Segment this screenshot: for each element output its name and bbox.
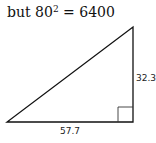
triangle-shape xyxy=(7,27,133,122)
right-angle-marker xyxy=(118,107,133,122)
right-triangle-diagram: 32.3 57.7 xyxy=(0,0,156,143)
horizontal-side-label: 57.7 xyxy=(60,126,80,136)
vertical-side-label: 32.3 xyxy=(136,73,156,83)
